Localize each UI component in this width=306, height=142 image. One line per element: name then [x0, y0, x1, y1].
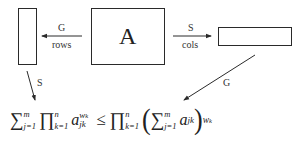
col-vector-box — [219, 28, 292, 46]
rhs-prod-symbol: ∏ — [110, 109, 126, 131]
less-or-equal-symbol: ≤ — [96, 110, 105, 130]
left-down-arrow — [27, 71, 35, 100]
open-paren: ( — [142, 103, 151, 138]
row-vector-box — [19, 9, 37, 65]
rhs-variable: a — [180, 111, 188, 129]
inequality-formula: ∑ m j=1 ∏ n k=1 awkjk ≤ ∏ n k=1 ( ∑ m j=… — [10, 104, 212, 136]
lhs-prod-symbol: ∏ — [39, 109, 55, 131]
rhs-sum-limits: m j=1 — [164, 110, 176, 131]
rhs-sum-symbol: ∑ — [151, 109, 165, 131]
right-down-arrow-label: G — [223, 78, 230, 88]
rows-arrow-top-label: G — [58, 23, 65, 33]
lhs-prod-limits: n k=1 — [55, 110, 69, 131]
lhs-sum-limits: m j=1 — [24, 110, 36, 131]
close-paren: ) — [194, 103, 203, 138]
matrix-a-label: A — [119, 24, 136, 48]
left-down-arrow-label: S — [37, 78, 43, 88]
rows-arrow-bottom-label: rows — [52, 40, 71, 50]
right-down-arrow — [184, 55, 255, 100]
lhs-sum-symbol: ∑ — [10, 109, 24, 131]
cols-arrow-top-label: S — [188, 23, 194, 33]
rhs-exponent: wk — [203, 115, 212, 125]
cols-arrow-bottom-label: cols — [182, 40, 198, 50]
rhs-prod-limits: n k=1 — [125, 110, 139, 131]
